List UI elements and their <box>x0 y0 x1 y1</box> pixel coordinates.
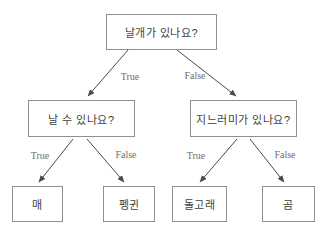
edge-label-fins-false: False <box>274 149 295 160</box>
node-penguin-label: 펭귄 <box>119 196 140 212</box>
edge-label-fly-true: True <box>31 150 50 161</box>
edge-label-fly-false: False <box>115 149 136 160</box>
node-has-wings: 날개가 있나요? <box>106 14 217 50</box>
edge-label-root-true: True <box>121 71 140 82</box>
node-has-wings-label: 날개가 있나요? <box>125 24 198 40</box>
node-bear-label: 곰 <box>283 196 294 212</box>
node-penguin: 펭귄 <box>103 186 155 222</box>
node-hawk-label: 매 <box>32 196 43 212</box>
node-can-fly-label: 날 수 있나요? <box>48 111 114 127</box>
edge-label-root-false: False <box>184 70 205 81</box>
edge-fly-false-line <box>87 139 124 182</box>
node-can-fly: 날 수 있나요? <box>28 100 135 137</box>
edge-label-fins-true: True <box>187 150 206 161</box>
node-bear: 곰 <box>262 186 315 222</box>
node-dolphin: 돌고래 <box>172 186 227 222</box>
node-has-fins: 지느러미가 있나요? <box>190 100 297 137</box>
node-has-fins-label: 지느러미가 있나요? <box>196 111 290 127</box>
edge-fins-false-line <box>250 139 284 182</box>
node-dolphin-label: 돌고래 <box>184 196 216 212</box>
decision-tree-diagram: 날개가 있나요? 날 수 있나요? 지느러미가 있나요? 매 펭귄 돌고래 곰 … <box>0 0 329 235</box>
node-hawk: 매 <box>12 186 63 222</box>
